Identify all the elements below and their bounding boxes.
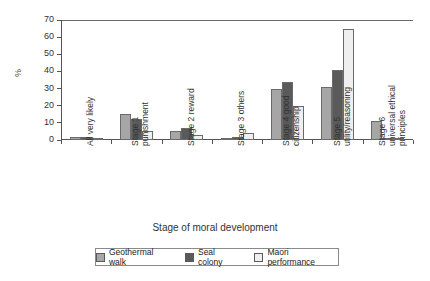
x-axis-label: Stage 6universal ethicalprinciples xyxy=(377,85,407,146)
legend-label: Seal colony xyxy=(198,247,241,267)
x-axis-tick xyxy=(413,140,414,144)
x-axis-label-line: All very likely xyxy=(85,97,95,146)
x-axis-label: Stage 5utility/reasoning xyxy=(332,87,352,146)
y-tick-label: 0 xyxy=(49,134,54,145)
x-axis-label-line: Stage 5 xyxy=(332,87,342,146)
x-axis-tick xyxy=(61,140,62,144)
x-axis-tick xyxy=(212,140,213,144)
y-axis-title: % xyxy=(13,69,23,77)
x-axis-label-line: principles xyxy=(397,85,407,146)
x-axis-label: Stage 4 goodcitizenship xyxy=(281,95,301,146)
legend-item: Seal colony xyxy=(185,247,241,267)
legend-item: Maori performance xyxy=(254,247,338,267)
x-axis-label-line: Stage 6 xyxy=(377,85,387,146)
y-tick-label: 10 xyxy=(44,117,54,128)
chart-legend: Geothermal walkSeal colonyMaori performa… xyxy=(95,248,339,266)
bar xyxy=(321,87,332,140)
x-axis-label-line: utility/reasoning xyxy=(342,87,352,146)
y-tick-label: 20 xyxy=(44,100,54,111)
x-axis-tick xyxy=(111,140,112,144)
y-tick-label: 30 xyxy=(44,83,54,94)
legend-swatch xyxy=(254,253,263,262)
x-axis-label: Stage 2 reward xyxy=(186,88,196,146)
legend-swatch xyxy=(96,253,105,262)
x-axis-title: Stage of moral development xyxy=(0,222,430,233)
bar xyxy=(70,137,81,140)
x-axis-label-line: Stage 3 others xyxy=(236,91,246,146)
legend-swatch xyxy=(185,253,194,262)
y-tick-label: 50 xyxy=(44,48,54,59)
x-axis-label-line: citizenship xyxy=(291,95,301,146)
x-axis-label: Stage 3 others xyxy=(236,91,246,146)
y-tick-label: 40 xyxy=(44,65,54,76)
bar xyxy=(170,131,181,140)
x-axis-label-line: Stage 1 xyxy=(130,102,140,146)
x-axis-label: All very likely xyxy=(85,97,95,146)
bar xyxy=(221,138,232,140)
x-axis-label: Stage 1punishment xyxy=(130,102,150,146)
x-axis-tick xyxy=(312,140,313,144)
x-axis-tick xyxy=(162,140,163,144)
x-axis-tick xyxy=(363,140,364,144)
x-axis-label-line: universal ethical xyxy=(387,85,397,146)
legend-item: Geothermal walk xyxy=(96,247,172,267)
bar-chart: % 010203040506070 All very likelyStage 1… xyxy=(0,0,430,281)
x-axis-label-line: Stage 4 good xyxy=(281,95,291,146)
legend-label: Geothermal walk xyxy=(109,247,172,267)
y-tick-label: 70 xyxy=(44,14,54,25)
y-tick-label: 60 xyxy=(44,31,54,42)
legend-label: Maori performance xyxy=(267,247,338,267)
x-axis-label-line: Stage 2 reward xyxy=(186,88,196,146)
x-axis-tick xyxy=(262,140,263,144)
x-axis-label-line: punishment xyxy=(140,102,150,146)
